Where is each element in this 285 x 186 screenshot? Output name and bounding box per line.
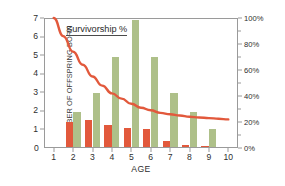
y-axis-right-tick-label: 20%	[244, 118, 259, 126]
x-axis-tick-label: 1	[51, 153, 56, 162]
x-axis-tick: 9	[208, 148, 209, 152]
x-axis-tick: 8	[189, 148, 190, 152]
y-axis-left-tick-label: 5	[33, 51, 38, 60]
y-axis-right-tick: 0%	[238, 148, 242, 149]
y-axis-left-tick-label: 2	[33, 107, 38, 116]
x-axis-tick-label: 3	[90, 153, 95, 162]
y-axis-left-tick-label: 3	[33, 88, 38, 97]
x-axis-tick-label: 2	[71, 153, 76, 162]
x-axis-tick-label: 9	[207, 153, 212, 162]
x-axis-tick: 3	[92, 148, 93, 152]
x-axis-tick: 6	[150, 148, 151, 152]
y-axis-right-tick: 80%	[238, 44, 242, 45]
y-axis-right-tick-label: 60%	[244, 66, 259, 74]
x-axis-tick: 2	[73, 148, 74, 152]
y-axis-right-tick-label: 80%	[244, 40, 259, 48]
survivorship-offspring-chart: NUMBER OF OFFSPRING BORN 1234567 0%20%40…	[0, 0, 285, 186]
y-axis-right-tick: 20%	[238, 122, 242, 123]
y-axis-right-minor-tick	[238, 31, 241, 32]
y-axis-right-tick: 40%	[238, 96, 242, 97]
y-axis-left-tick-label: 1	[33, 125, 38, 134]
y-axis-right-tick: 60%	[238, 70, 242, 71]
x-axis-tick-label: 4	[110, 153, 115, 162]
x-axis-tick: 5	[131, 148, 132, 152]
x-axis-tick-label: 6	[148, 153, 153, 162]
y-axis-right-tick-label: 0%	[244, 144, 255, 152]
x-axis-tick: 7	[170, 148, 171, 152]
plot-area: NUMBER OF OFFSPRING BORN 1234567 0%20%40…	[44, 18, 238, 148]
x-axis-tick-label: 10	[224, 153, 234, 162]
survivorship-annotation: Survivorship %	[66, 24, 127, 36]
y-axis-left-tick-label: 6	[33, 32, 38, 41]
y-axis-right-minor-tick	[238, 109, 241, 110]
y-axis-right-minor-tick	[238, 135, 241, 136]
x-axis-tick-label: 5	[129, 153, 134, 162]
y-axis-left-tick-label: 4	[33, 69, 38, 78]
y-axis-right-tick: 100%	[238, 18, 242, 19]
y-axis-right-minor-tick	[238, 83, 241, 84]
survivorship-curve	[44, 18, 238, 148]
y-axis-zero-label: 0	[34, 144, 39, 153]
x-axis-tick: 4	[111, 148, 112, 152]
y-axis-right-tick-label: 100%	[244, 14, 263, 22]
x-axis-tick: 1	[53, 148, 54, 152]
x-axis-tick: 10	[228, 148, 229, 152]
y-axis-right-tick-label: 40%	[244, 92, 259, 100]
x-axis-tick-label: 8	[187, 153, 192, 162]
x-axis-title: AGE	[131, 164, 150, 174]
x-axis-tick-label: 7	[168, 153, 173, 162]
y-axis-left-tick-label: 7	[33, 14, 38, 23]
y-axis-right-minor-tick	[238, 57, 241, 58]
